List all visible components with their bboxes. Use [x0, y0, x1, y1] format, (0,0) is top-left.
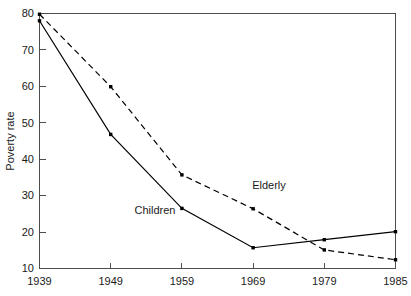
x-tick-label-1949: 1949 — [98, 275, 122, 287]
y-tick-label-10: 10 — [22, 262, 34, 274]
data-point-elderly-1979 — [323, 248, 326, 251]
series-line-elderly — [40, 14, 396, 260]
poverty-rate-line-chart: 10 20 30 40 50 60 70 80 1939 1949 1959 1… — [0, 0, 411, 296]
data-point-children-1985 — [394, 230, 397, 233]
series-children — [38, 19, 397, 249]
data-point-children-1949 — [109, 133, 112, 136]
data-point-elderly-1969 — [251, 207, 254, 210]
series-elderly — [38, 13, 397, 262]
y-tick-label-30: 30 — [22, 189, 34, 201]
y-tick-label-80: 80 — [22, 7, 34, 19]
data-point-children-1979 — [323, 238, 326, 241]
y-tick-label-70: 70 — [22, 44, 34, 56]
x-axis-ticks — [40, 263, 396, 269]
series-label-elderly: Elderly — [252, 179, 286, 191]
x-tick-label-1939: 1939 — [27, 275, 51, 287]
y-tick-label-60: 60 — [22, 80, 34, 92]
x-tick-label-1959: 1959 — [170, 275, 194, 287]
data-point-elderly-1949 — [109, 85, 112, 88]
data-series-layer — [38, 13, 397, 262]
y-axis-tick-labels: 10 20 30 40 50 60 70 80 — [22, 7, 34, 274]
series-label-children: Children — [135, 204, 176, 216]
y-tick-label-40: 40 — [22, 153, 34, 165]
series-line-children — [40, 21, 396, 248]
data-point-elderly-1959 — [180, 173, 183, 176]
x-tick-label-1969: 1969 — [241, 275, 265, 287]
y-axis-title: Poverty rate — [4, 111, 16, 170]
x-tick-label-1979: 1979 — [312, 275, 336, 287]
axes-frame-rect — [40, 14, 396, 269]
x-axis-tick-labels: 1939 1949 1959 1969 1979 1985 — [27, 275, 407, 287]
data-point-children-1969 — [251, 246, 254, 249]
data-point-elderly-1939 — [38, 13, 41, 16]
y-tick-label-50: 50 — [22, 117, 34, 129]
y-axis-ticks — [40, 14, 46, 269]
x-tick-label-1985: 1985 — [383, 275, 407, 287]
y-tick-label-20: 20 — [22, 226, 34, 238]
chart-canvas: 10 20 30 40 50 60 70 80 1939 1949 1959 1… — [0, 0, 411, 296]
plot-frame — [40, 14, 396, 269]
data-point-children-1939 — [38, 19, 41, 22]
data-point-elderly-1985 — [394, 258, 397, 261]
data-point-children-1959 — [180, 207, 183, 210]
